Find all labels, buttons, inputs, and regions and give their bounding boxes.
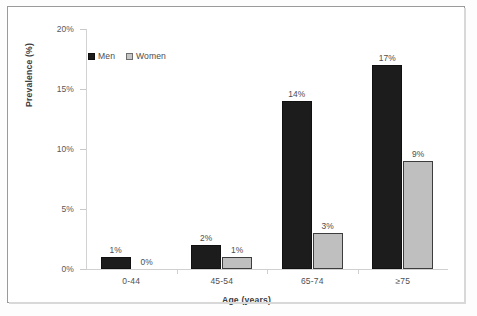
bar-women-≥75 [403, 161, 433, 269]
x-axis-tick [358, 269, 359, 274]
chart-figure: Prevalence (%) Age (years) 0%5%10%15%20%… [0, 0, 477, 316]
bar-value-label: 1% [95, 245, 137, 255]
legend-label-women: Women [136, 51, 166, 61]
legend-item-women: Women [126, 51, 166, 61]
bar-value-label: 0% [126, 257, 168, 267]
bar-value-label: 3% [307, 221, 349, 231]
bar-value-label: 2% [185, 233, 227, 243]
bar-men-≥75 [372, 65, 402, 269]
legend-item-men: Men [88, 51, 115, 61]
y-axis-title: Prevalence (%) [24, 43, 34, 107]
y-axis-tick-label: 5% [34, 204, 74, 214]
x-axis-category-label: 65-74 [267, 276, 358, 286]
x-axis-category-label: 0-44 [86, 276, 177, 286]
y-axis-tick-label: 10% [34, 144, 74, 154]
bar-value-label: 1% [216, 245, 258, 255]
plot-area: 1%0%2%1%14%3%17%9% [86, 29, 448, 269]
legend-label-men: Men [98, 51, 115, 61]
gray-square-icon [126, 53, 133, 60]
x-axis-tick [177, 269, 178, 274]
x-axis-category-label: 45-54 [177, 276, 268, 286]
bar-value-label: 9% [397, 149, 439, 159]
y-axis-tick [80, 269, 86, 270]
bar-women-45-54 [222, 257, 252, 269]
bar-women-65-74 [313, 233, 343, 269]
bar-value-label: 17% [366, 53, 408, 63]
bar-men-65-74 [282, 101, 312, 269]
chart-frame: Prevalence (%) Age (years) 0%5%10%15%20%… [7, 6, 465, 303]
chart-legend: Men Women [88, 51, 166, 61]
black-square-icon [88, 53, 95, 60]
y-axis-tick-label: 20% [34, 24, 74, 34]
bar-value-label: 14% [276, 89, 318, 99]
x-axis-title: Age (years) [8, 295, 477, 305]
y-axis-tick-label: 0% [34, 264, 74, 274]
x-axis-tick [267, 269, 268, 274]
x-axis-category-label: ≥75 [358, 276, 449, 286]
y-axis-tick-label: 15% [34, 84, 74, 94]
